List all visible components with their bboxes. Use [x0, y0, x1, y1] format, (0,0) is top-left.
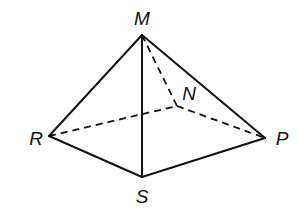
edge-np-hidden: [177, 106, 265, 138]
edge-rn-hidden: [49, 106, 177, 136]
edge-rs: [49, 136, 142, 177]
vertex-label-m: M: [134, 8, 150, 29]
vertex-label-s: S: [136, 186, 149, 207]
vertex-label-p: P: [276, 128, 289, 149]
vertex-label-n: N: [182, 83, 196, 104]
vertex-label-r: R: [29, 128, 43, 149]
vertex-labels: MNRPS: [29, 8, 289, 207]
edge-mp: [142, 35, 265, 138]
edge-mr: [49, 35, 142, 136]
edge-mn-hidden: [142, 35, 177, 106]
pyramid-edges: [49, 35, 265, 177]
pyramid-diagram: MNRPS: [0, 0, 299, 216]
edge-sp: [142, 138, 265, 177]
